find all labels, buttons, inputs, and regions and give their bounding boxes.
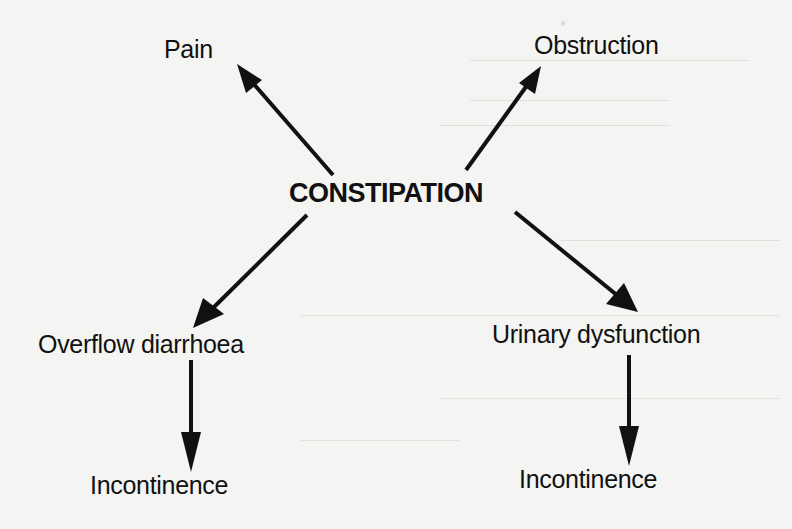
node-urinary-dysfunction: Urinary dysfunction bbox=[492, 322, 700, 347]
arrow-to-overflow-diarrhoea bbox=[193, 215, 307, 328]
arrow-overflow-to-incontinence bbox=[181, 360, 201, 472]
arrow-to-urinary-dysfunction bbox=[515, 212, 638, 312]
arrow-to-obstruction bbox=[466, 66, 541, 170]
node-constipation: CONSTIPATION bbox=[289, 180, 483, 207]
arrow-to-pain bbox=[237, 64, 333, 175]
node-obstruction: Obstruction bbox=[534, 33, 659, 58]
node-incontinence-right: Incontinence bbox=[519, 467, 657, 492]
node-incontinence-left: Incontinence bbox=[90, 473, 228, 498]
arrow-urinary-to-incontinence bbox=[619, 355, 639, 466]
node-overflow-diarrhoea: Overflow diarrhoea bbox=[38, 332, 244, 357]
node-pain: Pain bbox=[164, 37, 213, 62]
arrows-layer bbox=[0, 0, 792, 529]
